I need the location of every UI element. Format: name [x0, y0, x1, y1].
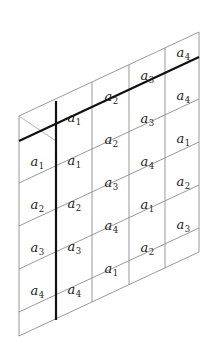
- cell-label-c1-r4: a4: [30, 284, 43, 297]
- cell-label-c5-r4: a2: [176, 175, 189, 188]
- cell-label-base: a: [176, 217, 184, 232]
- cell-label-base: a: [104, 175, 112, 190]
- cell-label-subscript: 1: [76, 116, 81, 126]
- cell-label-subscript: 3: [149, 117, 154, 127]
- cell-label-base: a: [176, 88, 184, 103]
- cell-label-subscript: 4: [185, 51, 190, 61]
- cell-label-base: a: [140, 111, 148, 126]
- cell-label-subscript: 1: [149, 203, 154, 213]
- cell-label-c2-r3: a2: [67, 197, 80, 210]
- cell-label-subscript: 1: [185, 137, 190, 147]
- cell-label-base: a: [140, 68, 148, 83]
- cell-label-subscript: 2: [113, 95, 118, 105]
- cell-label-subscript: 4: [113, 224, 118, 234]
- cell-label-c4-r2: a3: [140, 112, 153, 125]
- cell-label-base: a: [30, 154, 38, 169]
- cell-label-base: a: [104, 89, 112, 104]
- cell-label-base: a: [104, 261, 112, 276]
- lattice-figure: a1a2a3a4a1a1a2a3a4a2a2a3a4a1a3a3a4a1a2a4…: [0, 0, 218, 354]
- cell-label-c1-r2: a2: [30, 198, 43, 211]
- cell-label-base: a: [30, 240, 38, 255]
- cell-label-c5-r5: a3: [176, 218, 189, 231]
- cell-label-base: a: [104, 218, 112, 233]
- cell-label-base: a: [176, 174, 184, 189]
- cell-label-c4-r4: a1: [140, 198, 153, 211]
- cell-label-c5-r2: a4: [176, 89, 189, 102]
- cell-label-c4-r3: a4: [140, 155, 153, 168]
- cell-label-c3-r2: a2: [104, 133, 117, 146]
- cell-label-subscript: 3: [113, 181, 118, 191]
- cell-label-base: a: [30, 197, 38, 212]
- cell-label-subscript: 4: [185, 94, 190, 104]
- cell-label-subscript: 4: [76, 288, 81, 298]
- cell-label-base: a: [140, 240, 148, 255]
- cell-label-subscript: 2: [76, 202, 81, 212]
- cell-label-c1-r1: a1: [30, 155, 43, 168]
- cell-label-subscript: 3: [39, 246, 44, 256]
- cell-label-subscript: 4: [39, 289, 44, 299]
- cell-label-base: a: [176, 131, 184, 146]
- cell-label-subscript: 1: [113, 267, 118, 277]
- cell-label-base: a: [140, 154, 148, 169]
- cell-label-c2-r4: a3: [67, 240, 80, 253]
- cell-label-c5-r3: a1: [176, 132, 189, 145]
- cell-label-c2-r1: a1: [67, 111, 80, 124]
- cell-label-c5-r1: a4: [176, 46, 189, 59]
- cell-label-c3-r4: a4: [104, 219, 117, 232]
- cell-label-subscript: 2: [39, 203, 44, 213]
- cell-label-c4-r1: a3: [140, 69, 153, 82]
- cell-label-c3-r3: a3: [104, 176, 117, 189]
- cell-label-base: a: [67, 282, 75, 297]
- cell-label-c4-r5: a2: [140, 241, 153, 254]
- cell-label-base: a: [67, 196, 75, 211]
- cell-label-subscript: 1: [39, 160, 44, 170]
- cell-label-subscript: 2: [149, 246, 154, 256]
- cell-label-subscript: 4: [149, 160, 154, 170]
- cell-label-subscript: 1: [76, 159, 81, 169]
- cell-label-base: a: [140, 197, 148, 212]
- cell-label-base: a: [67, 153, 75, 168]
- cell-label-c1-r3: a3: [30, 241, 43, 254]
- cell-label-subscript: 2: [185, 180, 190, 190]
- cell-label-c2-r2: a1: [67, 154, 80, 167]
- cell-label-subscript: 3: [149, 74, 154, 84]
- cell-label-base: a: [67, 239, 75, 254]
- cell-label-subscript: 2: [113, 138, 118, 148]
- cell-label-base: a: [67, 110, 75, 125]
- cell-label-c3-r1: a2: [104, 90, 117, 103]
- cell-label-base: a: [176, 45, 184, 60]
- cell-label-c3-r5: a1: [104, 262, 117, 275]
- cell-label-subscript: 3: [185, 223, 190, 233]
- cell-label-base: a: [30, 283, 38, 298]
- cell-label-subscript: 3: [76, 245, 81, 255]
- cell-label-base: a: [104, 132, 112, 147]
- cell-label-c2-r5: a4: [67, 283, 80, 296]
